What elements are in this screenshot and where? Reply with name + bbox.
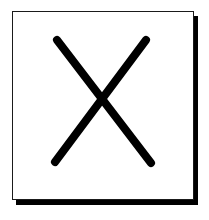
close-box-button[interactable] bbox=[12, 11, 194, 200]
